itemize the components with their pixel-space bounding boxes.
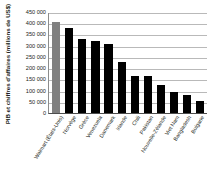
bar[interactable] bbox=[183, 95, 191, 113]
bar-series bbox=[49, 13, 207, 113]
bar[interactable] bbox=[196, 101, 204, 113]
x-axis-tick-label: Chili bbox=[132, 115, 142, 127]
bar[interactable] bbox=[78, 39, 86, 113]
y-axis-tick-label: 450 000 bbox=[15, 10, 46, 16]
y-axis-tick-labels: 450 000400 000350 000300 000250 000200 0… bbox=[15, 13, 46, 114]
y-axis-title: PIB et chiffres d'affaires (millions de … bbox=[0, 0, 16, 128]
bar[interactable] bbox=[104, 44, 112, 113]
bar[interactable] bbox=[52, 22, 60, 113]
y-axis-tick-label: 150 000 bbox=[15, 78, 46, 84]
x-axis-tick-label: Bulgarie bbox=[191, 115, 206, 135]
x-axis-tick-labels: Walmart (États-Unis)NorvègeGrèceVenezuel… bbox=[48, 115, 207, 170]
y-axis-tick-label: 250 000 bbox=[15, 55, 46, 61]
bar[interactable] bbox=[170, 92, 178, 113]
y-axis-tick-label: 200 000 bbox=[15, 66, 46, 72]
y-axis-tick-label: 50 000 bbox=[15, 100, 46, 106]
bar[interactable] bbox=[157, 85, 165, 114]
y-axis-title-label: PIB et chiffres d'affaires (millions de … bbox=[5, 4, 11, 124]
y-axis-tick-label: 0 bbox=[15, 111, 46, 117]
bar[interactable] bbox=[131, 76, 139, 113]
x-axis-tick-label: Norvège bbox=[62, 115, 77, 135]
bar[interactable] bbox=[65, 28, 73, 113]
y-axis-tick-label: 400 000 bbox=[15, 21, 46, 27]
x-axis-tick-label: Walmart (États-Unis) bbox=[34, 115, 65, 160]
bar[interactable] bbox=[91, 41, 99, 113]
bar[interactable] bbox=[118, 62, 126, 113]
y-axis-tick-label: 350 000 bbox=[15, 33, 46, 39]
bar-chart: PIB et chiffres d'affaires (millions de … bbox=[0, 0, 216, 170]
y-axis-tick-label: 300 000 bbox=[15, 44, 46, 50]
x-axis-tick-label: Irlande bbox=[116, 115, 129, 132]
y-axis-tick-label: 100 000 bbox=[15, 89, 46, 95]
bar[interactable] bbox=[144, 76, 152, 113]
plot-area bbox=[48, 13, 207, 114]
